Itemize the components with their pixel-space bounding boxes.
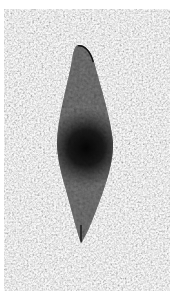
photograph xyxy=(4,9,170,291)
photo-svg xyxy=(4,9,170,291)
photo-frame xyxy=(0,0,174,291)
